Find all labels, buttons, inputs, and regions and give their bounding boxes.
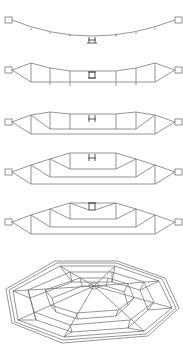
- center-connector-icon: [88, 115, 96, 122]
- left-anchor-icon: [5, 169, 12, 175]
- center-connector-icon: [88, 72, 96, 78]
- right-anchor-icon: [175, 169, 182, 175]
- stage-4-elevation: [0, 150, 183, 200]
- stage-3-elevation: [0, 100, 183, 150]
- stage-5-elevation: [0, 200, 183, 250]
- right-anchor-icon: [175, 17, 182, 23]
- stage-1-elevation: [0, 0, 183, 50]
- right-anchor-icon: [175, 219, 182, 225]
- center-connector-icon: [88, 203, 96, 210]
- suspension-cable: [12, 20, 175, 36]
- right-anchor-icon: [175, 67, 182, 73]
- right-anchor-icon: [175, 119, 182, 125]
- center-connector-icon: [87, 37, 97, 43]
- octagonal-roof-perspective: [0, 250, 183, 345]
- center-connector-icon: [88, 154, 96, 161]
- left-anchor-icon: [5, 17, 12, 23]
- left-anchor-icon: [5, 119, 12, 125]
- left-anchor-icon: [5, 67, 12, 73]
- left-anchor-icon: [5, 219, 12, 225]
- diagram-canvas: [0, 0, 183, 345]
- stage-2-elevation: [0, 50, 183, 100]
